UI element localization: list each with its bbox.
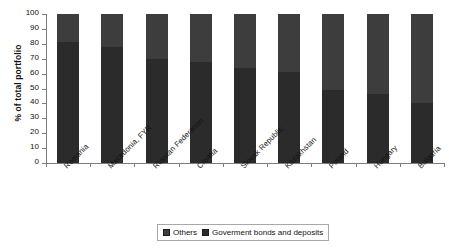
y-axis-tick-label: 30 [17,112,39,121]
legend-swatch-icon [163,229,170,236]
y-axis-tick-label: 70 [17,53,39,62]
chart-legend: OthersGoverment bonds and deposits [157,224,329,241]
y-axis-tick: 20 [42,133,46,134]
bar-segment-government-bonds [57,42,79,163]
y-axis-tick: 70 [42,59,46,60]
bar-poland [322,14,344,163]
bar-bulgaria [411,14,433,163]
y-axis-tick-label: 0 [17,157,39,166]
bar-segment-others [322,14,344,90]
bar-segment-government-bonds [101,47,123,163]
bar-croatia [190,14,212,163]
bar-segment-others [411,14,433,103]
bar-segment-others [278,14,300,72]
y-axis-tick: 10 [42,148,46,149]
y-axis-tick-label: 20 [17,127,39,136]
bar-segment-others [57,14,79,42]
bar-segment-government-bonds [190,62,212,163]
bar-segment-others [101,14,123,47]
bar-segment-government-bonds [146,59,168,163]
bar-segment-others [190,14,212,62]
legend-label: Others [173,228,197,237]
bar-segment-others [367,14,389,94]
bar-kazakhstan [278,14,300,163]
legend-swatch-icon [202,229,209,236]
y-axis-tick-label: 40 [17,97,39,106]
x-axis-tick [444,163,445,167]
y-axis-tick: 50 [42,89,46,90]
legend-item-goverment-bonds-and-deposits[interactable]: Goverment bonds and deposits [202,228,323,237]
bar-segment-others [234,14,256,68]
y-axis-tick: 30 [42,118,46,119]
y-axis-tick-label: 100 [17,8,39,17]
y-axis-line [46,14,47,163]
bar-macedonia-fyr [101,14,123,163]
bar-russian-federation [146,14,168,163]
plot-area: 0102030405060708090100 [46,14,444,163]
bar-romania [57,14,79,163]
stacked-bar-chart: % of total portfolio 0102030405060708090… [0,0,449,248]
legend-label: Goverment bonds and deposits [212,228,323,237]
bar-slovak-republic [234,14,256,163]
y-axis-tick-label: 80 [17,38,39,47]
y-axis-tick: 60 [42,74,46,75]
x-axis-labels: RomaniaMacedonia, FYRRussian FederationC… [46,164,444,216]
y-axis-tick-label: 90 [17,23,39,32]
y-axis-tick: 40 [42,103,46,104]
legend-item-others[interactable]: Others [163,228,197,237]
y-axis-tick: 100 [42,14,46,15]
y-axis-tick-label: 60 [17,68,39,77]
bar-segment-others [146,14,168,59]
y-axis-tick-label: 50 [17,83,39,92]
bar-hungary [367,14,389,163]
y-axis-tick: 80 [42,44,46,45]
y-axis-tick-label: 10 [17,142,39,151]
y-axis-tick: 90 [42,29,46,30]
